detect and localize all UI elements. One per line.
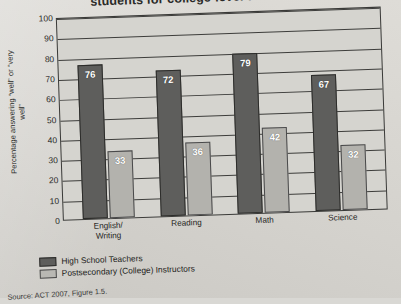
y-tick-label: 60 xyxy=(46,94,56,104)
bar-value-label: 32 xyxy=(342,148,365,160)
y-axis-ticks: 0102030405060708090100 xyxy=(26,18,60,222)
x-axis-label-line: Reading xyxy=(171,218,202,228)
x-axis-label: Science xyxy=(304,212,383,241)
bar-group: 6732 xyxy=(296,8,381,212)
plot-area: 7633723679426732 xyxy=(56,7,388,221)
bar[interactable]: 76 xyxy=(77,64,107,219)
legend: High School TeachersPostsecondary (Colle… xyxy=(39,251,195,280)
legend-label: Postsecondary (College) Instructors xyxy=(62,263,195,278)
x-axis-label: Math xyxy=(225,214,304,243)
bar-value-label: 76 xyxy=(78,68,101,80)
bar-group: 7236 xyxy=(141,13,226,217)
bar[interactable]: 42 xyxy=(262,127,290,213)
x-axis-label-line: Writing xyxy=(96,230,122,240)
bar-group: 7942 xyxy=(218,11,303,215)
y-tick-label: 70 xyxy=(45,74,55,84)
legend-label: High School Teachers xyxy=(61,253,143,266)
bar-value-label: 36 xyxy=(186,146,209,158)
y-axis-label: Percentage answering “well” or “very wel… xyxy=(5,46,29,179)
bar-groups: 7633723679426732 xyxy=(57,8,387,220)
x-axis-label-line: English/ xyxy=(94,221,123,231)
y-tick-label: 100 xyxy=(38,13,53,23)
bar-value-label: 67 xyxy=(312,78,335,90)
x-axis-label: Reading xyxy=(147,217,226,246)
y-tick-label: 0 xyxy=(55,216,60,226)
y-tick-label: 40 xyxy=(47,135,57,145)
x-axis-label-line: Math xyxy=(255,215,274,225)
bar-group: 7633 xyxy=(63,16,148,220)
legend-swatch xyxy=(39,257,56,267)
bar[interactable]: 32 xyxy=(341,144,368,210)
source-note: Source: ACT 2007, Figure 1.5. xyxy=(7,287,107,302)
y-tick-label: 90 xyxy=(44,33,54,43)
bar[interactable]: 36 xyxy=(185,142,213,216)
x-axis-label-line: Science xyxy=(328,213,357,223)
bar[interactable]: 67 xyxy=(311,74,341,211)
bar[interactable]: 33 xyxy=(107,150,134,218)
y-tick-label: 10 xyxy=(50,196,60,206)
y-tick-label: 50 xyxy=(47,115,57,125)
figure: students for college-level work?” Percen… xyxy=(0,0,401,304)
bar[interactable]: 72 xyxy=(155,69,185,216)
x-axis-label: English/Writing xyxy=(69,220,148,249)
legend-swatch xyxy=(40,269,57,279)
y-tick-label: 30 xyxy=(48,155,58,165)
bar[interactable]: 79 xyxy=(233,53,264,214)
bar-value-label: 79 xyxy=(234,57,257,69)
bar-value-label: 42 xyxy=(263,131,286,143)
bar-value-label: 72 xyxy=(156,74,179,86)
y-tick-label: 80 xyxy=(45,54,55,64)
bar-value-label: 33 xyxy=(109,154,132,166)
y-tick-label: 20 xyxy=(49,175,59,185)
